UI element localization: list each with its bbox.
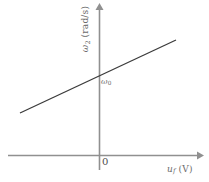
intercept-label: ω0 <box>101 77 111 86</box>
y-axis-arrowhead-icon <box>96 3 104 10</box>
x-axis-label-unit: (V) <box>178 164 192 174</box>
intercept-label-subscript: 0 <box>108 80 112 86</box>
y-axis-label-symbol: ω <box>80 45 90 53</box>
y-axis-label-unit: (rad/s) <box>80 6 90 38</box>
origin-label: 0 <box>102 156 109 167</box>
intercept-label-symbol: ω <box>101 77 108 86</box>
y-axis-label-unit-spacer <box>80 37 90 40</box>
plot-canvas <box>0 0 209 182</box>
x-axis-label: uf (V) <box>167 164 193 175</box>
y-axis-label-text: ω2 (rad/s) <box>80 6 91 52</box>
y-axis <box>96 3 104 170</box>
y-axis-label-subscript: 2 <box>84 40 92 44</box>
x-axis-arrowhead-icon <box>197 152 204 160</box>
figure-container: ω2 (rad/s) uf (V) ω0 0 <box>0 0 209 182</box>
data-line-omega2-vs-uf <box>20 40 176 113</box>
y-axis-label: ω2 (rad/s) <box>79 1 93 57</box>
